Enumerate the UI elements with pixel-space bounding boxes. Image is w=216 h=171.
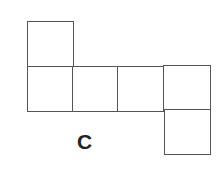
net-square-row-4	[163, 65, 211, 111]
figure-label: C	[77, 131, 92, 152]
net-square-top-flap	[27, 21, 74, 68]
net-square-row-1	[27, 66, 74, 112]
net-square-row-2	[72, 66, 119, 112]
net-square-bottom-flap	[164, 109, 211, 155]
net-square-row-3	[117, 66, 165, 112]
